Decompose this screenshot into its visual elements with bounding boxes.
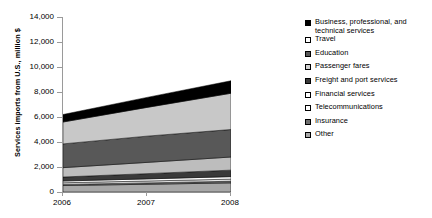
legend-item[interactable]: Other bbox=[305, 130, 432, 139]
y-tick-mark bbox=[57, 42, 62, 43]
stacked-area-series bbox=[63, 17, 231, 192]
y-tick-label: 8,000 bbox=[10, 88, 54, 96]
legend-item[interactable]: Financial services bbox=[305, 90, 432, 99]
y-tick-label: 4,000 bbox=[10, 138, 54, 146]
y-tick-mark bbox=[57, 142, 62, 143]
legend-item[interactable]: Telecommunications bbox=[305, 103, 432, 112]
legend-label: Travel bbox=[315, 35, 336, 44]
y-axis-tick-labels: 14,00012,00010,0008,0006,0004,0002,0000 bbox=[8, 0, 54, 218]
legend-label: Financial services bbox=[315, 90, 375, 99]
legend-swatch-icon bbox=[305, 119, 311, 125]
legend-swatch-icon bbox=[305, 92, 311, 98]
y-tick-label: 0 bbox=[10, 188, 54, 196]
y-tick-mark bbox=[57, 117, 62, 118]
legend-label: Freight and port services bbox=[315, 76, 398, 85]
legend-swatch-icon bbox=[305, 20, 311, 26]
legend-label: Education bbox=[315, 49, 348, 58]
x-tick-mark bbox=[62, 192, 63, 196]
chart-legend: Business, professional, and technical se… bbox=[305, 18, 432, 144]
legend-item[interactable]: Insurance bbox=[305, 117, 432, 126]
legend-item[interactable]: Business, professional, and technical se… bbox=[305, 18, 432, 35]
y-tick-mark bbox=[57, 67, 62, 68]
y-tick-label: 14,000 bbox=[10, 13, 54, 21]
chart-figure: Services imports from U.S., million $ 14… bbox=[0, 0, 432, 218]
legend-label: Passenger fares bbox=[315, 62, 370, 71]
legend-swatch-icon bbox=[305, 132, 311, 138]
legend-label: Business, professional, and technical se… bbox=[315, 18, 432, 35]
plot-area bbox=[62, 17, 231, 192]
y-tick-mark bbox=[57, 92, 62, 93]
legend-swatch-icon bbox=[305, 64, 311, 70]
x-tick-label: 2007 bbox=[126, 198, 166, 207]
legend-swatch-icon bbox=[305, 51, 311, 57]
y-tick-mark bbox=[57, 167, 62, 168]
legend-item[interactable]: Education bbox=[305, 49, 432, 58]
legend-label: Other bbox=[315, 130, 334, 139]
legend-item[interactable]: Freight and port services bbox=[305, 76, 432, 85]
x-tick-label: 2008 bbox=[210, 198, 250, 207]
x-tick-mark bbox=[146, 192, 147, 196]
x-tick-label: 2006 bbox=[42, 198, 82, 207]
legend-swatch-icon bbox=[305, 78, 311, 84]
x-tick-mark bbox=[230, 192, 231, 196]
legend-swatch-icon bbox=[305, 37, 311, 43]
y-tick-label: 12,000 bbox=[10, 38, 54, 46]
y-tick-label: 6,000 bbox=[10, 113, 54, 121]
y-tick-label: 10,000 bbox=[10, 63, 54, 71]
legend-label: Telecommunications bbox=[315, 103, 383, 112]
legend-label: Insurance bbox=[315, 117, 348, 126]
y-tick-mark bbox=[57, 17, 62, 18]
legend-swatch-icon bbox=[305, 105, 311, 111]
legend-item[interactable]: Travel bbox=[305, 35, 432, 44]
legend-item[interactable]: Passenger fares bbox=[305, 62, 432, 71]
y-tick-label: 2,000 bbox=[10, 163, 54, 171]
